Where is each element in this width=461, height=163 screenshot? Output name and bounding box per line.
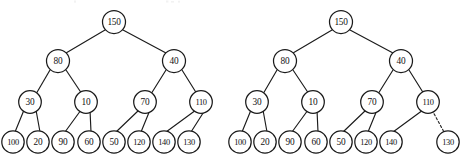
node-10[interactable]: 10 — [75, 91, 98, 114]
edge-110-130-dashed — [432, 110, 444, 132]
leaf-140-label: 140 — [158, 138, 170, 147]
node-40[interactable]: 40 — [390, 50, 413, 73]
edge-150-80 — [66, 30, 105, 53]
edge-150-40 — [350, 30, 393, 53]
leaf-140-label: 140 — [385, 138, 397, 147]
leaf-60[interactable]: 60 — [78, 131, 100, 153]
edge-40-110 — [182, 70, 197, 94]
binary-tree-figure: 150 80 40 30 10 — [0, 0, 461, 163]
left-tree: 150 80 40 30 10 — [2, 11, 213, 154]
right-tree-nodes: 150 80 40 30 10 — [246, 11, 440, 114]
leaf-50-label: 50 — [337, 137, 346, 147]
edge-10-60 — [317, 110, 318, 132]
node-80[interactable]: 80 — [274, 50, 297, 73]
leaf-140[interactable]: 140 — [380, 131, 402, 153]
edge-70-50 — [343, 110, 366, 132]
node-40-label: 40 — [397, 56, 406, 66]
edge-30-100 — [242, 110, 251, 132]
node-10-label: 10 — [82, 97, 91, 107]
leaf-20[interactable]: 20 — [27, 131, 49, 153]
node-40-label: 40 — [170, 56, 179, 66]
node-110[interactable]: 110 — [417, 91, 440, 114]
leaf-60-label: 60 — [312, 137, 321, 147]
leaf-130[interactable]: 130 — [178, 131, 200, 153]
leaf-60[interactable]: 60 — [305, 131, 327, 153]
leaf-130-label: 130 — [442, 138, 454, 147]
edge-80-30 — [36, 70, 50, 94]
leaf-20[interactable]: 20 — [254, 131, 276, 153]
tree-diagram-canvas: 150 80 40 30 10 — [0, 0, 461, 163]
leaf-90-label: 90 — [286, 137, 295, 147]
leaf-50[interactable]: 50 — [103, 131, 125, 153]
left-tree-edges — [15, 30, 205, 132]
leaf-100[interactable]: 100 — [2, 131, 24, 153]
right-tree-edges — [242, 30, 444, 132]
leaf-140[interactable]: 140 — [153, 131, 175, 153]
leaf-130-label: 130 — [183, 138, 195, 147]
left-tree-leaves: 100 20 90 60 50 — [2, 131, 200, 153]
node-150[interactable]: 150 — [330, 11, 353, 34]
leaf-100-label: 100 — [234, 138, 246, 147]
leaf-50[interactable]: 50 — [330, 131, 352, 153]
leaf-120-label: 120 — [133, 138, 145, 147]
edge-10-90 — [65, 110, 81, 132]
leaf-50-label: 50 — [110, 137, 119, 147]
leaf-90[interactable]: 90 — [52, 131, 74, 153]
edge-80-10 — [293, 70, 309, 94]
node-40[interactable]: 40 — [163, 50, 186, 73]
right-tree: 150 80 40 30 10 — [229, 11, 459, 154]
leaf-120-label: 120 — [360, 138, 372, 147]
node-30-label: 30 — [26, 97, 35, 107]
edge-150-40 — [123, 30, 166, 53]
node-70-label: 70 — [368, 97, 377, 107]
edge-40-70 — [151, 70, 166, 94]
node-80-label: 80 — [281, 56, 290, 66]
node-110[interactable]: 110 — [190, 91, 213, 114]
node-30[interactable]: 30 — [246, 91, 269, 114]
node-110-label: 110 — [195, 98, 206, 107]
edge-40-110 — [409, 70, 424, 94]
edge-110-140 — [166, 110, 196, 132]
leaf-20-label: 20 — [34, 137, 43, 147]
node-70[interactable]: 70 — [134, 91, 157, 114]
node-80-label: 80 — [54, 56, 63, 66]
node-150-label: 150 — [334, 17, 348, 27]
node-150-label: 150 — [107, 17, 121, 27]
edge-80-30 — [263, 70, 277, 94]
leaf-60-label: 60 — [85, 137, 94, 147]
right-tree-leaves: 100 20 90 60 50 — [229, 131, 459, 153]
left-tree-nodes: 150 80 40 30 10 — [19, 11, 213, 114]
edge-150-80 — [293, 30, 332, 53]
leaf-120[interactable]: 120 — [128, 131, 150, 153]
node-10[interactable]: 10 — [302, 91, 325, 114]
leaf-130[interactable]: 130 — [437, 131, 459, 153]
edge-70-50 — [116, 110, 139, 132]
edge-110-140 — [393, 110, 423, 132]
leaf-90-label: 90 — [59, 137, 68, 147]
top-edge-artifacts — [74, 1, 180, 3]
edge-30-100 — [15, 110, 24, 132]
edge-40-70 — [378, 70, 393, 94]
edge-30-20 — [263, 110, 267, 132]
edge-30-20 — [36, 110, 40, 132]
leaf-20-label: 20 — [261, 137, 270, 147]
node-110-label: 110 — [422, 98, 433, 107]
node-150[interactable]: 150 — [103, 11, 126, 34]
edge-10-90 — [292, 110, 308, 132]
node-70-label: 70 — [141, 97, 150, 107]
leaf-100[interactable]: 100 — [229, 131, 251, 153]
edge-10-60 — [90, 110, 91, 132]
node-30[interactable]: 30 — [19, 91, 42, 114]
edge-80-10 — [66, 70, 82, 94]
node-70[interactable]: 70 — [361, 91, 384, 114]
node-30-label: 30 — [253, 97, 262, 107]
leaf-100-label: 100 — [7, 138, 19, 147]
node-80[interactable]: 80 — [47, 50, 70, 73]
leaf-90[interactable]: 90 — [279, 131, 301, 153]
node-10-label: 10 — [309, 97, 318, 107]
leaf-120[interactable]: 120 — [355, 131, 377, 153]
